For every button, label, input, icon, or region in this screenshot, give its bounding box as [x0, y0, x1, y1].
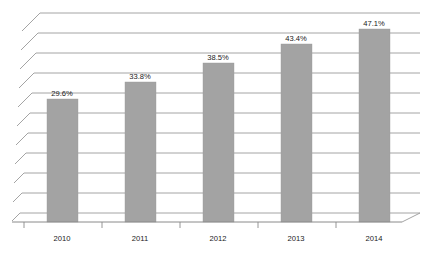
category-label-2011: 2011: [132, 234, 148, 243]
data-label-2011: 33.8%: [129, 72, 151, 81]
wall-diagonal-5: [17, 113, 30, 126]
wall-diagonal-1: [13, 193, 22, 202]
category-label-2014: 2014: [366, 234, 383, 243]
wall-diagonal-4: [16, 133, 28, 145]
bar-2014[interactable]: [359, 29, 390, 222]
floor-diagonal-right: [402, 213, 420, 222]
left-wall-group: [12, 13, 40, 221]
wall-diagonal-10: [22, 13, 40, 31]
data-label-2014: 47.1%: [363, 19, 385, 28]
wall-diagonal-7: [19, 73, 34, 88]
wall-diagonal-2: [14, 173, 24, 183]
data-label-2013: 43.4%: [285, 34, 307, 43]
bar-2013[interactable]: [281, 44, 312, 222]
category-label-2010: 2010: [54, 234, 71, 243]
wall-diagonal-3: [15, 153, 26, 164]
bar-2010[interactable]: [47, 99, 78, 222]
bar-chart-figure: 29.6% 33.8% 38.5% 43.4% 47.1% 2010 2011 …: [0, 0, 442, 256]
wall-diagonal-0: [12, 213, 20, 221]
data-label-2012: 38.5%: [207, 53, 229, 62]
category-label-2013: 2013: [288, 234, 305, 243]
wall-diagonal-6: [18, 93, 32, 107]
data-label-2010: 29.6%: [51, 89, 73, 98]
bar-2012[interactable]: [203, 63, 234, 222]
bar-2011[interactable]: [125, 82, 156, 222]
category-label-group: 2010 2011 2012 2013 2014: [54, 234, 383, 243]
category-label-2012: 2012: [210, 234, 227, 243]
chart-canvas: 29.6% 33.8% 38.5% 43.4% 47.1% 2010 2011 …: [0, 0, 442, 256]
wall-diagonal-9: [21, 33, 38, 50]
wall-diagonal-8: [20, 53, 36, 69]
